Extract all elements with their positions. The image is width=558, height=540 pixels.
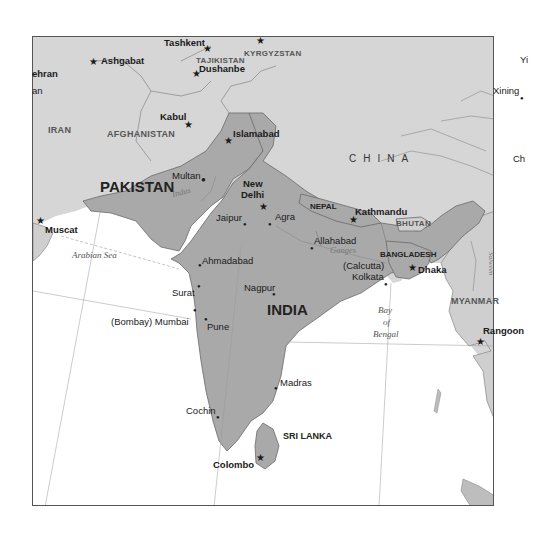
star-icon: ★ — [224, 136, 233, 146]
label-india: INDIA — [267, 302, 308, 317]
star-icon: ★ — [192, 69, 201, 79]
label-kyrgyzstan: KYRGYZSTAN — [244, 50, 302, 58]
label-tehran: ehran — [32, 69, 58, 79]
label-bhutan: BHUTAN — [396, 220, 431, 228]
dot-icon: ● — [272, 291, 276, 297]
sumatra-land — [461, 479, 494, 506]
label-mumbai: (Bombay) Mumbai — [111, 317, 189, 327]
dot-icon: ● — [268, 221, 272, 227]
label-new-delhi-1: New — [243, 179, 263, 189]
label-china: CHINA — [349, 154, 415, 164]
star-icon: ★ — [184, 120, 193, 130]
star-icon: ★ — [259, 202, 268, 212]
dot-icon: ● — [384, 281, 388, 287]
label-bangladesh: BANGLADESH — [380, 251, 436, 259]
star-icon: ★ — [36, 216, 45, 226]
label-afghanistan: AFGHANISTAN — [107, 130, 175, 139]
star-icon: ★ — [349, 215, 358, 225]
label-nagpur: Nagpur — [244, 283, 275, 293]
label-partial-an: an — [32, 86, 43, 96]
label-surat: Surat — [172, 288, 195, 298]
star-icon: ★ — [203, 44, 212, 54]
label-calcutta: (Calcutta) — [343, 261, 384, 271]
label-bay-2: of — [383, 318, 390, 327]
dot-icon: ● — [198, 262, 202, 268]
label-pakistan: PAKISTAN — [100, 179, 174, 194]
label-sri-lanka: SRI LANKA — [283, 432, 332, 441]
star-icon: ★ — [89, 57, 98, 67]
label-multan: Multan — [172, 171, 201, 181]
label-partial-yi: Yi — [520, 55, 528, 65]
star-icon: ★ — [408, 263, 417, 273]
star-icon: ★ — [256, 36, 265, 46]
label-colombo: Colombo — [213, 460, 254, 470]
label-ashgabat: Ashgabat — [101, 56, 144, 66]
label-agra: Agra — [275, 212, 295, 222]
label-tashkent: Tashkent — [164, 38, 205, 48]
star-icon: ★ — [476, 337, 485, 347]
andaman-islands — [434, 389, 441, 413]
label-madras: Madras — [280, 378, 312, 388]
label-arabian-sea: Arabian Sea — [72, 251, 117, 260]
label-rangoon: Rangoon — [483, 326, 524, 336]
label-myanmar: MYANMAR — [451, 297, 499, 306]
label-islamabad: Islamabad — [233, 129, 279, 139]
label-kabul: Kabul — [160, 112, 186, 122]
label-salween: Salween — [487, 252, 494, 275]
dot-icon: ● — [201, 176, 206, 184]
dot-icon: ● — [243, 221, 247, 227]
dot-icon: ● — [310, 245, 314, 251]
label-new-delhi-2: Delhi — [241, 190, 264, 200]
dot-icon: ● — [216, 414, 220, 420]
label-ahmadabad: Ahmadabad — [202, 256, 253, 266]
dot-icon: ● — [197, 283, 201, 289]
dot-icon: ● — [193, 307, 197, 313]
label-cochin: Cochin — [186, 406, 216, 416]
label-ganges: Ganges — [330, 246, 356, 255]
label-jaipur: Jaipur — [216, 213, 242, 223]
label-dhaka: Dhaka — [418, 265, 447, 275]
dot-icon: ● — [520, 95, 524, 101]
label-dushanbe: Dushanbe — [199, 64, 245, 74]
label-iran: IRAN — [48, 126, 71, 135]
label-kolkata: Kolkata — [352, 272, 384, 282]
label-xining: Xining — [493, 86, 519, 96]
dot-icon: ● — [204, 316, 208, 322]
label-kathmandu: Kathmandu — [355, 207, 407, 217]
star-icon: ★ — [256, 453, 265, 463]
label-pune: Pune — [207, 322, 229, 332]
label-partial-ch: Ch — [513, 154, 525, 164]
label-bay-3: Bengal — [373, 330, 399, 339]
label-nepal: NEPAL — [310, 203, 337, 211]
dot-icon: ● — [274, 385, 278, 391]
south-asia-map: IRAN AFGHANISTAN PAKISTAN INDIA CHINA NE… — [0, 0, 558, 540]
label-muscat: Muscat — [45, 225, 78, 235]
label-bay-1: Bay — [378, 306, 392, 315]
